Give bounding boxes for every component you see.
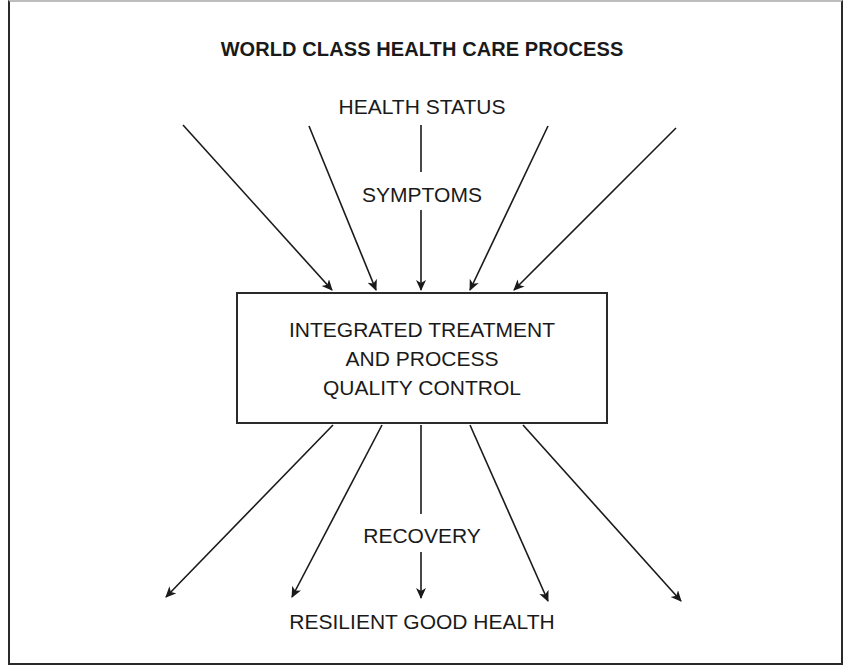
diagram-title: WORLD CLASS HEALTH CARE PROCESS <box>0 38 844 61</box>
incoming-arrow-4 <box>470 126 548 290</box>
outgoing-arrow-4 <box>470 425 548 601</box>
symptoms-label: SYMPTOMS <box>0 183 844 207</box>
outgoing-arrow-1 <box>166 425 333 597</box>
process-box: INTEGRATED TREATMENT AND PROCESS QUALITY… <box>236 292 608 424</box>
incoming-arrow-2 <box>309 126 376 290</box>
outgoing-arrow-2 <box>292 425 382 597</box>
resilient-good-health-label: RESILIENT GOOD HEALTH <box>0 610 844 634</box>
recovery-label: RECOVERY <box>0 524 844 548</box>
process-line-1: INTEGRATED TREATMENT <box>289 315 555 344</box>
process-line-2: AND PROCESS <box>346 344 499 373</box>
outgoing-arrow-5 <box>523 425 681 601</box>
health-status-label: HEALTH STATUS <box>0 95 844 119</box>
process-line-3: QUALITY CONTROL <box>323 373 521 402</box>
incoming-arrow-5 <box>514 128 676 290</box>
incoming-arrow-1 <box>183 125 332 290</box>
